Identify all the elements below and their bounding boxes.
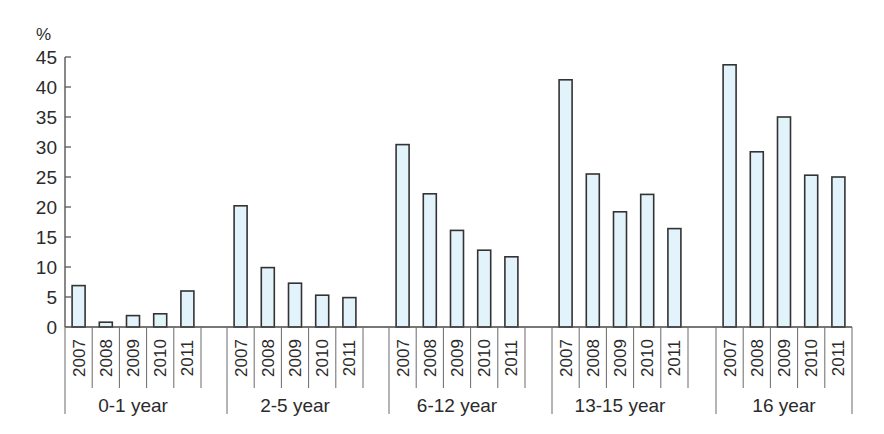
bar <box>343 298 356 327</box>
year-tick-label: 2011 <box>340 340 359 377</box>
y-tick-label: 5 <box>46 287 57 308</box>
y-tick-label: 10 <box>36 257 57 278</box>
year-tick-label: 2009 <box>124 339 143 377</box>
year-tick-label: 2009 <box>448 339 467 377</box>
bar <box>99 322 112 327</box>
bar <box>559 80 572 327</box>
year-tick-label: 2010 <box>475 339 494 377</box>
bar-group <box>234 206 356 327</box>
year-tick-label: 2009 <box>286 339 305 377</box>
y-tick-label: 45 <box>36 47 57 68</box>
grouped-bar-chart: % 051015202530354045 2007200820092010201… <box>0 0 884 434</box>
year-tick-label: 2009 <box>611 339 630 377</box>
year-tick-label: 2007 <box>232 339 251 377</box>
bar-group <box>723 65 845 327</box>
year-tick-label: 2011 <box>502 340 521 377</box>
bar-group <box>559 80 681 327</box>
chart-canvas: % 051015202530354045 2007200820092010201… <box>0 0 884 434</box>
year-tick-label: 2011 <box>665 340 684 377</box>
bar <box>614 212 627 327</box>
y-tick-label: 30 <box>36 137 57 158</box>
bar-group <box>72 286 194 327</box>
bar <box>750 152 763 327</box>
bar <box>289 283 302 327</box>
year-tick-label: 2010 <box>151 339 170 377</box>
bar <box>396 145 409 327</box>
bar <box>832 177 845 327</box>
year-tick-label: 2008 <box>97 339 116 377</box>
year-tick-label: 2008 <box>584 339 603 377</box>
year-tick-label: 2008 <box>259 339 278 377</box>
group-label: 16 year <box>752 395 816 416</box>
y-tick-label: 25 <box>36 167 57 188</box>
bar <box>234 206 247 327</box>
y-axis-unit-label: % <box>36 25 51 44</box>
bar <box>505 257 518 327</box>
bar <box>72 286 85 327</box>
bar <box>586 174 599 327</box>
year-tick-label: 2007 <box>394 339 413 377</box>
bar <box>423 194 436 327</box>
bar <box>723 65 736 327</box>
y-tick-label: 35 <box>36 107 57 128</box>
bar <box>316 295 329 327</box>
bar <box>127 316 140 327</box>
group-label: 6-12 year <box>417 395 498 416</box>
bar <box>451 230 464 327</box>
group-label: 2-5 year <box>260 395 330 416</box>
bar <box>778 117 791 327</box>
y-tick-label: 40 <box>36 77 57 98</box>
x-axis: 200720082009201020110-1 year200720082009… <box>65 327 852 416</box>
bar-group <box>396 145 518 327</box>
group-label: 0-1 year <box>98 395 168 416</box>
year-tick-label: 2008 <box>421 339 440 377</box>
bar <box>181 291 194 327</box>
bar <box>641 194 654 327</box>
year-tick-label: 2010 <box>313 339 332 377</box>
y-axis: 051015202530354045 <box>36 47 71 338</box>
year-tick-label: 2009 <box>775 339 794 377</box>
year-tick-label: 2011 <box>829 340 848 377</box>
bars-layer <box>72 65 845 327</box>
bar <box>805 175 818 327</box>
year-tick-label: 2007 <box>557 339 576 377</box>
bar <box>478 250 491 327</box>
year-tick-label: 2008 <box>748 339 767 377</box>
bar <box>261 268 274 327</box>
year-tick-label: 2007 <box>721 339 740 377</box>
y-tick-label: 15 <box>36 227 57 248</box>
year-tick-label: 2010 <box>802 339 821 377</box>
group-label: 13-15 year <box>575 395 667 416</box>
y-tick-label: 0 <box>46 317 57 338</box>
year-tick-label: 2010 <box>638 339 657 377</box>
bar <box>154 314 167 327</box>
year-tick-label: 2007 <box>70 339 89 377</box>
bar <box>668 229 681 327</box>
year-tick-label: 2011 <box>178 340 197 377</box>
y-tick-label: 20 <box>36 197 57 218</box>
